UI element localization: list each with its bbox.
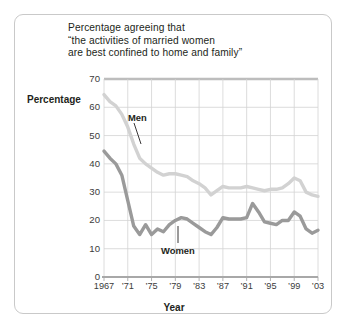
series-line-men — [104, 95, 318, 197]
chart-canvas — [0, 0, 348, 331]
x-axis-line — [102, 277, 318, 281]
gridlines — [104, 79, 318, 277]
series-annotation-women: Women — [161, 245, 195, 256]
series-annotation-men: Men — [128, 112, 147, 123]
